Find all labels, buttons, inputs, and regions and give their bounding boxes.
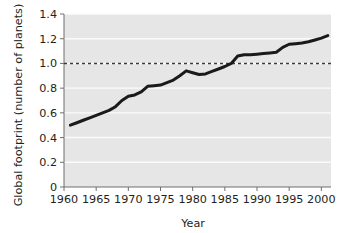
y-axis-title: Global footprint (number of planets) <box>12 4 25 207</box>
plot-area-background <box>64 14 331 187</box>
y-tick-label-3: 0.6 <box>39 107 57 120</box>
x-tick-label-2: 1970 <box>114 193 142 206</box>
y-tick-label-4: 0.8 <box>39 82 57 95</box>
x-tick-label-4: 1980 <box>178 193 206 206</box>
y-tick-label-7: 1.4 <box>39 8 57 21</box>
x-tick-label-6: 1990 <box>243 193 271 206</box>
x-tick-label-1: 1965 <box>82 193 110 206</box>
chart-figure: 00.20.40.60.81.01.21.4 19601965197019751… <box>0 0 347 233</box>
x-tick-label-7: 1995 <box>275 193 303 206</box>
y-tick-label-2: 0.4 <box>39 132 57 145</box>
y-tick-label-1: 0.2 <box>39 156 57 169</box>
y-tick-label-5: 1.0 <box>39 57 57 70</box>
x-tick-label-3: 1975 <box>146 193 174 206</box>
y-tick-label-6: 1.2 <box>39 33 57 46</box>
x-tick-label-8: 2000 <box>307 193 335 206</box>
x-tick-label-0: 1960 <box>50 193 78 206</box>
plot-background-rect <box>64 14 331 187</box>
footprint-line-chart: 00.20.40.60.81.01.21.4 19601965197019751… <box>0 0 347 233</box>
x-axis-title: Year <box>180 217 205 230</box>
x-tick-label-5: 1985 <box>211 193 239 206</box>
